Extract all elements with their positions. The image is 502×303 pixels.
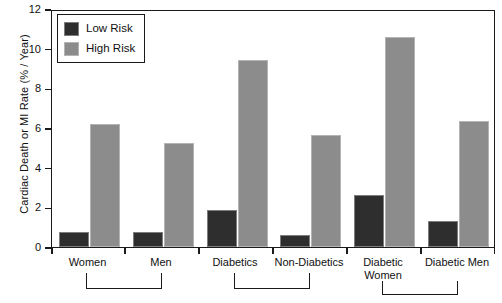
bar-diabetic-women-high-risk [385,37,415,247]
bar-diabetic-men-high-risk [459,121,489,247]
bar-women-low-risk [59,232,89,247]
x-tick-mark [420,248,422,254]
y-tick-label: 12 [0,3,41,16]
bar-chart: Cardiac Death or MI Rate (% / Year) 0 2 … [0,0,502,303]
y-tick-label: 0 [0,241,41,254]
group-bracket-diabetic-women-men [382,281,458,295]
legend-label-high-risk: High Risk [86,42,135,55]
legend-item-high-risk: High Risk [64,40,135,57]
bar-men-high-risk [164,143,194,247]
y-tick-label: 6 [0,122,41,135]
x-tick-mark [124,248,126,254]
bar-women-high-risk [90,124,120,247]
bar-non-diabetics-low-risk [280,235,310,247]
bar-diabetics-low-risk [207,210,237,247]
x-label-line-2: Women [346,269,420,282]
y-tick-label: 4 [0,162,41,175]
legend-item-low-risk: Low Risk [64,20,135,37]
y-tick-label: 8 [0,82,41,95]
legend-label-low-risk: Low Risk [86,22,133,35]
x-tick-mark [272,248,274,254]
x-tick-mark [494,248,496,254]
low-risk-swatch-icon [64,22,79,36]
x-label-women: Women [51,256,124,269]
group-bracket-diabetics-nondiabetics [234,273,310,289]
x-tick-mark [51,248,53,254]
x-label-men: Men [124,256,198,269]
group-bracket-women-men [86,273,162,289]
bar-diabetics-high-risk [238,60,268,247]
bar-diabetic-men-low-risk [428,221,458,247]
x-label-diabetic-men: Diabetic Men [418,256,496,269]
y-tick-label: 10 [0,43,41,56]
high-risk-swatch-icon [64,42,79,56]
x-tick-mark [198,248,200,254]
legend: Low Risk High Risk [57,14,145,63]
x-label-diabetics: Diabetics [198,256,272,269]
x-label-diabetic-women: Diabetic Women [346,256,420,281]
bar-diabetic-women-low-risk [354,195,384,247]
bar-non-diabetics-high-risk [311,135,341,247]
x-tick-mark [346,248,348,254]
bar-men-low-risk [133,232,163,247]
x-label-non-diabetics: Non-Diabetics [272,256,346,269]
y-tick-label: 2 [0,201,41,214]
x-label-line-1: Diabetic [346,256,420,269]
